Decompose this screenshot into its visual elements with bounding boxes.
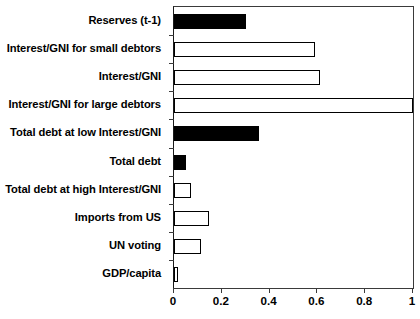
bar-row	[174, 7, 413, 35]
bar-row	[174, 204, 413, 232]
x-axis-tick-5	[412, 288, 413, 293]
x-axis-tick-label-1: 0.2	[213, 294, 229, 307]
category-label-6: Total debt at high Interest/GNI	[5, 175, 161, 203]
category-label-1: Interest/GNI for small debtors	[7, 34, 161, 62]
category-label-8: UN voting	[109, 231, 161, 259]
category-label-2: Interest/GNI	[99, 62, 161, 90]
horizontal-bar-chart: Reserves (t-1)Interest/GNI for small deb…	[0, 0, 420, 319]
plot-area	[173, 6, 414, 289]
category-axis-labels: Reserves (t-1)Interest/GNI for small deb…	[0, 6, 167, 287]
category-label-3: Interest/GNI for large debtors	[9, 90, 161, 118]
bar-row	[174, 176, 413, 204]
x-axis: 00.20.40.60.81	[173, 288, 414, 319]
bar-row	[174, 260, 413, 288]
bar-row	[174, 232, 413, 260]
x-axis-tick-label-4: 0.8	[356, 294, 372, 307]
bar-row	[174, 91, 413, 119]
bar-0	[174, 14, 246, 29]
x-axis-tick-label-5: 1	[409, 294, 415, 307]
x-axis-tick-label-3: 0.6	[308, 294, 324, 307]
bar-row	[174, 119, 413, 147]
category-label-7: Imports from US	[75, 203, 161, 231]
x-axis-tick-label-2: 0.4	[261, 294, 277, 307]
x-axis-tick-label-0: 0	[170, 294, 176, 307]
x-axis-tick-2	[269, 288, 270, 293]
bar-row	[174, 148, 413, 176]
x-axis-tick-3	[316, 288, 317, 293]
bar-2	[174, 70, 320, 85]
bar-4	[174, 126, 259, 141]
bar-8	[174, 239, 201, 254]
category-label-0: Reserves (t-1)	[88, 6, 161, 34]
bar-5	[174, 155, 186, 170]
category-label-5: Total debt	[109, 147, 161, 175]
category-label-9: GDP/capita	[102, 259, 161, 287]
bar-row	[174, 35, 413, 63]
bar-6	[174, 183, 191, 198]
x-axis-tick-0	[173, 288, 174, 293]
bar-9	[174, 267, 178, 282]
bar-1	[174, 42, 315, 57]
x-axis-tick-4	[364, 288, 365, 293]
x-axis-tick-1	[221, 288, 222, 293]
bar-3	[174, 98, 413, 113]
category-label-4: Total debt at low Interest/GNI	[10, 118, 161, 146]
bar-7	[174, 211, 209, 226]
bar-row	[174, 63, 413, 91]
